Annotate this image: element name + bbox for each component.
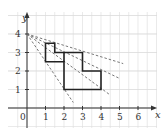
x-tick-label: 4: [99, 112, 105, 122]
x-tick-label: 2: [62, 112, 68, 122]
dashed-ray: [27, 34, 123, 64]
dashed-ray: [27, 34, 73, 102]
y-tick-label: 4: [15, 29, 21, 39]
y-tick-label: 1: [15, 85, 21, 95]
coordinate-diagram: 01234561234 y x: [0, 0, 165, 134]
x-tick-label: 5: [117, 112, 123, 122]
x-axis-label: x: [155, 109, 161, 120]
y-axis-label: y: [21, 12, 28, 23]
y-tick-label: 2: [15, 66, 21, 76]
dashed-rays: [27, 34, 123, 102]
y-tick-label: 3: [15, 48, 21, 58]
x-tick-label: 6: [136, 112, 142, 122]
x-tick-label: 3: [80, 112, 86, 122]
x-tick-label: 1: [43, 112, 49, 122]
x-tick-label: 0: [20, 112, 26, 122]
dashed-ray: [27, 34, 110, 95]
